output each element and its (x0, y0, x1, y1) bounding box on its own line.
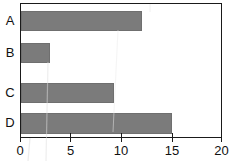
bar-category-c (21, 83, 114, 103)
y-axis-label-c: C (2, 86, 18, 100)
x-tick-mark-5 (70, 133, 71, 142)
y-axis-label-d: D (2, 116, 18, 130)
x-axis-tick-label-5: 5 (59, 144, 83, 158)
bar-chart: A B C D 0 5 10 15 20 (0, 0, 234, 161)
bar-category-b (21, 43, 50, 63)
x-axis-tick-label-20: 20 (210, 144, 234, 158)
y-axis-label-b: B (2, 46, 18, 60)
x-axis-tick-label-10: 10 (109, 144, 133, 158)
x-tick-mark-20 (221, 133, 222, 142)
x-axis-tick-label-0: 0 (8, 144, 32, 158)
y-axis-label-a: A (2, 14, 18, 28)
x-tick-mark-0 (20, 133, 21, 142)
x-axis-tick-label-15: 15 (160, 144, 184, 158)
x-tick-mark-10 (121, 133, 122, 142)
bar-category-a (21, 11, 142, 31)
x-tick-mark-15 (172, 133, 173, 142)
bar-category-d (21, 113, 172, 134)
